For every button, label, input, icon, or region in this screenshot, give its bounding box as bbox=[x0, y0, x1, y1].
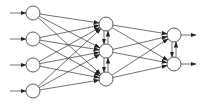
hidden-neuron bbox=[99, 72, 113, 86]
input-neuron bbox=[26, 32, 40, 46]
hidden-neuron bbox=[99, 44, 113, 58]
weight-edge bbox=[40, 80, 99, 90]
weight-edge bbox=[113, 37, 167, 50]
output-neuron bbox=[167, 57, 181, 71]
input-neuron bbox=[26, 6, 40, 20]
hidden-neuron bbox=[99, 17, 113, 31]
weight-edge bbox=[113, 66, 167, 78]
weight-edge bbox=[113, 52, 167, 62]
weight-edge bbox=[40, 40, 99, 50]
weight-edge bbox=[40, 14, 99, 23]
weight-edge bbox=[39, 27, 100, 61]
neural-network-diagram bbox=[0, 0, 202, 107]
weight-edge bbox=[40, 52, 99, 63]
weight-edge bbox=[38, 29, 101, 87]
output-neuron bbox=[167, 28, 181, 42]
weight-edge bbox=[39, 16, 100, 48]
weight-edge bbox=[38, 18, 101, 75]
weight-edge bbox=[40, 66, 99, 77]
input-neuron bbox=[26, 84, 40, 98]
neuron-nodes bbox=[26, 6, 181, 98]
input-neuron bbox=[26, 58, 40, 72]
